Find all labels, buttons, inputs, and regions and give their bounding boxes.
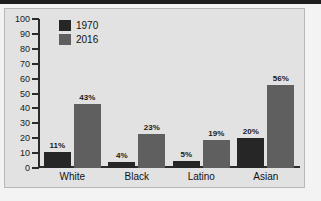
chart-legend: 1970 2016	[59, 19, 125, 47]
y-axis-tick-label: 90	[8, 30, 30, 39]
category-label-black: Black	[105, 171, 170, 183]
y-axis-labels: 1009080706050403020100	[5, 9, 30, 189]
y-axis-tick-label: 60	[8, 75, 30, 84]
bar-2016-latino: 19%	[203, 140, 230, 168]
bar-value-label: 11%	[49, 142, 65, 150]
y-axis-tick-label: 80	[8, 45, 30, 54]
legend-item-2016: 2016	[59, 33, 125, 46]
bar-2016-asian: 56%	[267, 85, 294, 168]
bar-1970-black: 4%	[108, 162, 135, 168]
bar-value-label: 23%	[144, 124, 160, 132]
bar-2016-black: 23%	[138, 134, 165, 168]
bar-1970-latino: 5%	[173, 161, 200, 168]
legend-swatch-1970	[59, 20, 71, 31]
bar-2016-white: 43%	[74, 104, 101, 168]
category-label-asian: Asian	[234, 171, 299, 183]
top-rule-divider	[0, 0, 321, 4]
y-axis-tick-label: 40	[8, 104, 30, 113]
y-axis-tick-label: 20	[8, 134, 30, 143]
bar-value-label: 19%	[208, 130, 224, 138]
category-label-white: White	[40, 171, 105, 183]
bar-group: 5%19%	[173, 19, 230, 168]
y-axis-tick-label: 100	[8, 15, 30, 24]
bar-1970-white: 11%	[44, 152, 71, 168]
bar-1970-asian: 20%	[237, 138, 264, 168]
bar-value-label: 20%	[243, 128, 259, 136]
plot-area: 1009080706050403020100 11%43%4%23%5%19%2…	[5, 9, 306, 189]
bar-value-label: 43%	[79, 94, 95, 102]
chart-figure: 1009080706050403020100 11%43%4%23%5%19%2…	[0, 0, 321, 201]
bar-value-label: 5%	[180, 151, 192, 159]
bar-value-label: 56%	[273, 75, 289, 83]
legend-label-1970: 1970	[76, 21, 98, 31]
chart-panel: 1009080706050403020100 11%43%4%23%5%19%2…	[4, 8, 305, 188]
category-label-latino: Latino	[169, 171, 234, 183]
bar-value-label: 4%	[116, 152, 128, 160]
bar-group: 20%56%	[237, 19, 294, 168]
y-axis-tick-label: 30	[8, 119, 30, 128]
y-axis-tick-label: 0	[8, 164, 30, 173]
legend-swatch-2016	[59, 34, 71, 45]
y-axis-tick-label: 50	[8, 90, 30, 99]
legend-item-1970: 1970	[59, 19, 125, 32]
y-axis-tick-label: 10	[8, 149, 30, 158]
y-axis-tick-label: 70	[8, 60, 30, 69]
legend-label-2016: 2016	[76, 35, 98, 45]
x-axis-category-labels: WhiteBlackLatinoAsian	[40, 171, 298, 187]
